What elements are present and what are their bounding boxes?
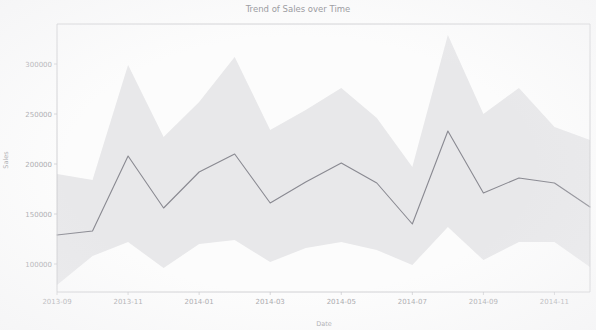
sales-trend-line-chart: 100000150000200000250000300000 2013-0920… <box>0 0 596 330</box>
y-tick-label: 200000 <box>25 161 52 169</box>
confidence-interval-band <box>57 35 590 285</box>
x-tick-label: 2014-11 <box>540 298 569 306</box>
y-tick-label: 250000 <box>25 111 52 119</box>
y-tick-label: 300000 <box>25 61 52 69</box>
x-axis-label: Date <box>316 320 332 328</box>
y-axis-ticks: 100000150000200000250000300000 <box>25 61 57 269</box>
chart-figure: 100000150000200000250000300000 2013-0920… <box>0 0 596 330</box>
y-tick-label: 100000 <box>25 261 52 269</box>
chart-title: Trend of Sales over Time <box>245 4 351 14</box>
x-tick-label: 2014-09 <box>469 298 498 306</box>
x-tick-label: 2014-05 <box>327 298 356 306</box>
x-tick-label: 2014-01 <box>185 298 214 306</box>
x-tick-label: 2013-11 <box>113 298 142 306</box>
y-tick-label: 150000 <box>25 211 52 219</box>
x-tick-label: 2014-07 <box>398 298 427 306</box>
y-axis-label: Sales <box>2 151 10 169</box>
x-tick-label: 2013-09 <box>42 298 71 306</box>
x-tick-label: 2014-03 <box>256 298 285 306</box>
x-axis-ticks: 2013-092013-112014-012014-032014-052014-… <box>42 292 569 306</box>
